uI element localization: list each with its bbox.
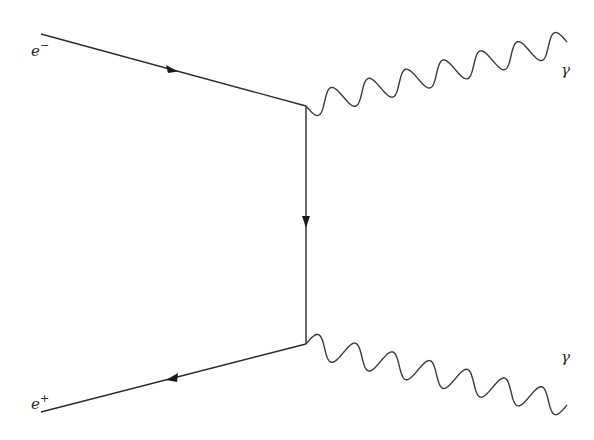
propagator-arrow-icon [302, 216, 310, 228]
electron-arrow-icon [166, 65, 178, 73]
feynman-diagram: e− e+ γ γ [0, 0, 594, 440]
photon-bottom-line [306, 334, 567, 414]
photon-top-line [306, 33, 567, 116]
positron-label: e+ [31, 392, 49, 413]
photon-top-label: γ [561, 61, 570, 79]
photon-bottom-label: γ [561, 348, 570, 366]
electron-label: e− [31, 39, 49, 60]
positron-arrow-icon [166, 373, 178, 382]
